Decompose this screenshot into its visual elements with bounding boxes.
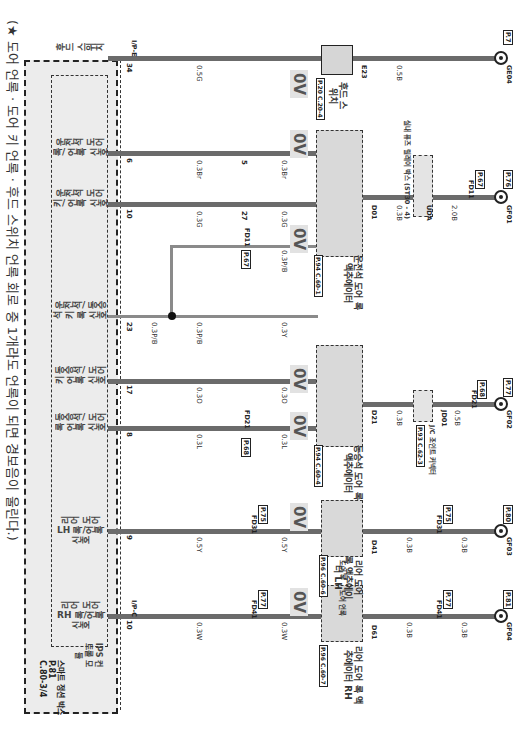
gauge-rear-lh-3: 0.3B	[405, 537, 413, 553]
voltage-hood: 0V	[290, 70, 308, 98]
actuator-rear-lh-conn: D41	[370, 540, 378, 554]
signal-rear-rh: 리어 도어 RH 록/언록 신호	[53, 600, 108, 630]
ground-gf04-page: P.81	[503, 590, 513, 609]
voltage-rear-rh: 0V	[290, 588, 308, 616]
actuator-driver-conn: D01	[370, 205, 378, 219]
gauge-rear-rh-3: 0.3B	[405, 622, 413, 638]
page-ref-fd41-b: P.77	[443, 590, 453, 609]
gauge-driver-key-2: 0.3P/B	[280, 250, 288, 273]
pin-driver-brown: 6	[125, 158, 133, 163]
ips-control-module	[51, 75, 108, 647]
joint-connector-ref: P.93 C.62-3	[416, 425, 425, 467]
gauge-rear-rh-1: 0.3W	[195, 622, 203, 640]
ground-gf03: GF03	[505, 537, 513, 556]
hood-switch	[321, 45, 353, 75]
gauge-passenger-1b: 0.3O	[195, 387, 203, 404]
wiring-diagram: (★ 도어 언록 · 도어 키 언록 · 후드 스위치 언록 회로 중 1개라도…	[0, 0, 513, 747]
pin-driver-key: 23	[125, 322, 133, 332]
gauge-driver-2: 0.3G	[280, 211, 288, 228]
hood-switch-label: 후드 스위치	[328, 78, 348, 113]
gauge-rear-rh-4: 0.3B	[460, 622, 468, 638]
smart-junction-box-label: 스마트 정션 박스 P.81 C.80-3/4	[38, 660, 65, 720]
signal-hood: 후드 스위치	[53, 42, 108, 52]
signal-driver-key-unlock: 운전석 도어 키/ 언록 신호	[53, 188, 108, 208]
voltage-driver-green: 0V	[290, 225, 308, 253]
ground-icon-gf03	[494, 524, 508, 538]
mid-pin-driver-brown: 5	[240, 160, 248, 165]
actuator-passenger-conn: D21	[370, 410, 378, 424]
gauge-driver-4: 2.0B	[450, 205, 458, 221]
gauge-driver-1b: 0.3Br	[195, 160, 203, 179]
ground-gf04: GF04	[505, 622, 513, 641]
connector-fd41: FD41	[250, 600, 258, 619]
connector-fd41-b: FD41	[435, 600, 443, 619]
pin-rear-rh: 10	[125, 620, 133, 630]
sjb-code: P.81	[47, 660, 56, 720]
ground-icon-ge04	[494, 51, 508, 65]
page-ref-fd11: P.67	[241, 250, 251, 269]
page-ref-fd21-b: P.68	[477, 380, 487, 399]
actuator-passenger-ref: P.94 C.60-4	[314, 445, 323, 487]
connector-fd11-b: FD11	[467, 180, 475, 199]
signal-driver-lock: 운전석 도어 록/ 언록 신호	[53, 137, 108, 157]
gauge-driver-key-2b: 0.3Y	[280, 322, 288, 337]
wire-hood	[108, 56, 498, 61]
pin-hood: 34	[125, 63, 133, 73]
ground-gf01-page: P.76	[503, 170, 513, 189]
gauge-driver-2b: 0.3Br	[280, 160, 288, 179]
diagram-title: (★ 도어 언록 · 도어 키 언록 · 후드 스위치 언록 회로 중 1개라도…	[4, 20, 23, 541]
page-ref-fd41: P.77	[258, 590, 268, 609]
splice-dot	[168, 312, 176, 320]
gauge-rear-lh-1: 0.5Y	[195, 537, 203, 552]
actuator-driver	[316, 130, 363, 257]
connector-ip-e: I/P-E	[130, 40, 138, 57]
actuator-driver-label: 운전석 도어 록 액추에이터	[343, 255, 363, 310]
connector-fd11: FD11	[243, 228, 251, 247]
connector-fd31: FD31	[250, 515, 258, 534]
ips-label: IPS 컨트롤 모듈	[73, 640, 103, 670]
ground-ge04: GE04	[505, 65, 513, 84]
gauge-driver-key-1: 0.3P/B	[150, 322, 158, 345]
pin-passenger-key: 17	[125, 385, 133, 395]
pin-driver-green: 10	[125, 209, 133, 219]
ground-icon-gf02	[494, 397, 508, 411]
title-text: (★ 도어 언록 · 도어 키 언록 · 후드 스위치 언록 회로 중 1개라도…	[5, 20, 20, 541]
gauge-driver-key-1b: 0.3P/B	[195, 322, 203, 345]
fuse-relay-box-label: 실내 퓨즈 릴레이 박스 (ST30 - 4)	[403, 120, 413, 219]
gauge-driver-3: 0.3B	[395, 205, 403, 221]
actuator-driver-ref: P.94 C.60-1	[314, 255, 323, 297]
page-ref-fd31-b: P.75	[443, 505, 453, 524]
actuator-passenger-label: 동승석 도어 록 액추에이터	[343, 445, 363, 500]
signal-rear-lh: 리어 도어 LH 록/언록 신호	[53, 515, 108, 545]
voltage-passenger-lock: 0V	[290, 412, 308, 440]
page-ref-fd21: P.68	[241, 438, 251, 457]
ground-icon-gf01	[494, 190, 508, 204]
actuator-rear-rh-conn: D61	[370, 625, 378, 639]
gauge-passenger-4: 0.5B	[453, 410, 461, 426]
actuator-rear-lh-label: 리어 도어 록 액추에이터 LH	[333, 555, 363, 600]
ground-gf02-page: P.77	[503, 378, 513, 397]
voltage-rear-lh: 0V	[290, 503, 308, 531]
signal-driver-key: 운전석/ 동승석 키 록 신호	[53, 300, 108, 320]
joint-connector-jd01	[413, 390, 433, 422]
gauge-passenger-3: 0.3B	[395, 410, 403, 426]
connector-ip-c: I/P-C	[130, 600, 138, 617]
gauge-rear-lh-2: 0.5Y	[280, 537, 288, 552]
ground-ge04-page: P.7	[503, 30, 513, 45]
harness-boundary	[120, 60, 121, 710]
page-ref-fd31: P.75	[258, 505, 268, 524]
voltage-passenger-key: 0V	[290, 365, 308, 393]
gauge-hood-2: 0.5B	[395, 65, 403, 81]
actuator-passenger	[316, 345, 363, 447]
signal-passenger-key: 동승석/ 도어 키 언록 신호	[53, 365, 108, 385]
fuse-relay-box-code: UDA	[425, 205, 433, 221]
actuator-rear-rh-label: 리어 도어 록 액추에이터 RH	[343, 645, 363, 705]
wire-driver-key	[108, 315, 318, 318]
gauge-passenger-2b: 0.3O	[280, 387, 288, 404]
hood-switch-conn: E23	[360, 65, 368, 79]
joint-connector-label: J/C 조인트 커넥터	[428, 425, 438, 475]
pin-passenger-lock: 8	[125, 432, 133, 437]
ground-gf03-page: P.80	[503, 505, 513, 524]
ground-gf02: GF02	[505, 410, 513, 429]
mid-pin-driver-green: 27	[240, 211, 248, 221]
